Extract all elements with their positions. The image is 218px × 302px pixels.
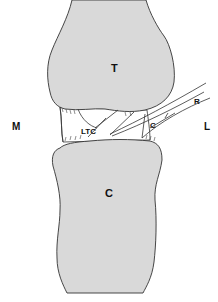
- label-medial: M: [12, 121, 20, 132]
- label-talus: T: [111, 62, 118, 74]
- anatomical-diagram: T C M L LTC C R: [0, 0, 218, 302]
- label-calcaneus: C: [105, 187, 113, 199]
- label-lateral: L: [204, 121, 210, 132]
- label-ltc: LTC: [81, 127, 96, 136]
- lower-bone-calcaneus: [52, 140, 162, 294]
- upper-bone-talus: [48, 0, 175, 112]
- label-c-ligament: C: [150, 121, 156, 130]
- ligament-region: [60, 107, 150, 142]
- label-r-ligament: R: [194, 97, 200, 106]
